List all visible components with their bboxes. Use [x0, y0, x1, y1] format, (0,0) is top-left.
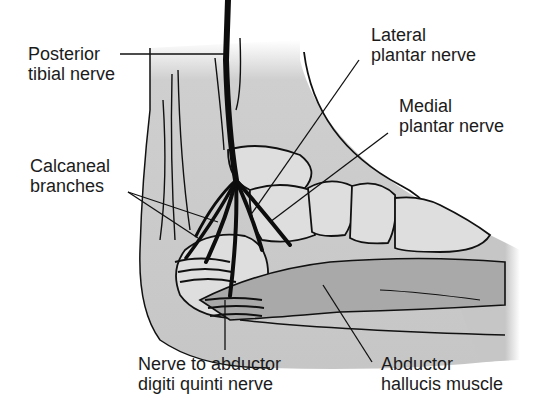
label-lateral-plantar-nerve: Lateral plantar nerve	[371, 25, 476, 65]
label-line: Lateral	[371, 25, 476, 45]
label-posterior-tibial-nerve: Posterior tibial nerve	[28, 44, 115, 84]
label-nerve-to-abductor-digiti-quinti: Nerve to abductor digiti quinti nerve	[138, 354, 281, 394]
label-line: Medial	[399, 96, 504, 116]
label-calcaneal-branches: Calcaneal branches	[30, 156, 110, 196]
label-line: Abductor	[381, 354, 503, 374]
label-line: tibial nerve	[28, 64, 115, 84]
label-line: plantar nerve	[399, 116, 504, 136]
label-abductor-hallucis-muscle: Abductor hallucis muscle	[381, 354, 503, 394]
label-line: Posterior	[28, 44, 115, 64]
label-line: hallucis muscle	[381, 374, 503, 394]
label-line: branches	[30, 176, 110, 196]
label-line: plantar nerve	[371, 45, 476, 65]
label-medial-plantar-nerve: Medial plantar nerve	[399, 96, 504, 136]
label-line: digiti quinti nerve	[138, 374, 281, 394]
label-line: Nerve to abductor	[138, 354, 281, 374]
label-line: Calcaneal	[30, 156, 110, 176]
anatomy-figure: Posterior tibial nerve Calcaneal branche…	[0, 0, 540, 412]
